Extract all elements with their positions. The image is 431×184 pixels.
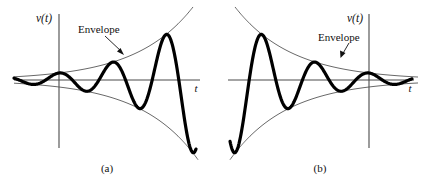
envelope-pointer-arrowhead-b [340,51,346,59]
envelope-annotation-a: Envelope [78,23,120,35]
panel-b: v(t) t Envelope (b) [216,0,431,184]
envelope-annotation-b: Envelope [318,31,360,43]
panel-a: v(t) t Envelope (a) [0,0,215,184]
lower-envelope-curve-a [14,83,198,160]
panel-a-plot: v(t) t Envelope (a) [0,0,215,184]
signal-waveform-a [14,34,196,152]
lower-envelope-curve-b [230,83,418,160]
figure-root: v(t) t Envelope (a) v(t) t Envelope (b) [0,0,431,184]
panel-caption-b: (b) [314,162,327,175]
panel-caption-a: (a) [101,162,114,175]
panel-b-plot: v(t) t Envelope (b) [216,0,431,184]
y-axis-label-a: v(t) [36,12,52,25]
y-axis-label-b: v(t) [347,12,363,25]
x-axis-label-b: t [408,82,412,94]
signal-waveform-b [230,34,412,152]
envelope-pointer-arrowhead-a [117,48,124,55]
x-axis-label-a: t [194,82,198,94]
